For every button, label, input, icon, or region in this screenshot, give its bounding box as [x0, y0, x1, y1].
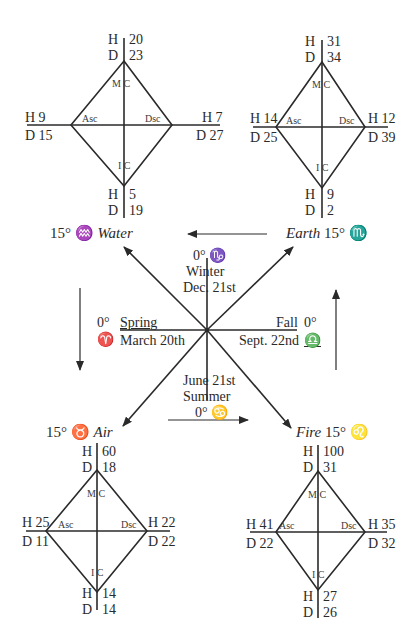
fire-ic-h-value: 27 [323, 590, 337, 604]
cancer-icon: ♋ [211, 405, 228, 420]
aries-icon: ♈ [97, 333, 114, 347]
water-ic-h-value: 5 [129, 188, 136, 202]
water-ic-angle: I C [118, 161, 131, 171]
fire-ic-h-label: H [303, 590, 313, 604]
air-asc-d: D 11 [22, 535, 49, 549]
fire-dsc-d: D 32 [368, 537, 396, 551]
fall-degree: 0° [304, 316, 317, 330]
water-ic-d-label: D [108, 204, 118, 218]
earth-mc-d-label: D [305, 51, 315, 65]
earth-ic-h-value: 9 [327, 188, 334, 202]
diagram-canvas [0, 0, 417, 636]
fire-mc-h-label: H [303, 445, 313, 459]
air-heading: 15° ♉ Air [46, 425, 113, 440]
leo-icon: ♌ [350, 424, 369, 440]
water-heading: 15° ♒ Water [50, 226, 133, 241]
air-mc-d-label: D [82, 461, 92, 475]
fire-mc-angle: M C [308, 490, 326, 500]
earth-mc-angle: M C [312, 80, 330, 90]
earth-mc-d-value: 34 [327, 51, 341, 65]
air-ic-angle: I C [91, 568, 104, 578]
earth-ic-h-label: H [305, 188, 315, 202]
fire-ic-d-label: D [303, 606, 313, 620]
fire-asc-d: D 22 [246, 537, 274, 551]
earth-asc-angle: Asc [286, 116, 302, 126]
fire-heading: Fire 15° ♌ [296, 425, 369, 440]
air-mc-d-value: 18 [102, 461, 116, 475]
summer-date: June 21st [183, 374, 236, 388]
winter-date: Dec. 21st [183, 281, 236, 295]
aquarius-icon: ♒ [75, 225, 94, 241]
earth-dsc-d: D 39 [368, 131, 396, 145]
air-ic-h-label: H [82, 587, 92, 601]
air-mc-h-label: H [82, 445, 92, 459]
water-mc-angle: M C [112, 79, 130, 89]
earth-chart [253, 40, 388, 218]
air-element-label: Air [94, 424, 113, 440]
spring-degree: 0° [97, 316, 110, 330]
fire-dsc-h: H 35 [368, 518, 396, 532]
water-ic-d-value: 19 [129, 204, 143, 218]
fire-dsc-angle: Dsc [341, 521, 357, 531]
fire-ic-angle: I C [312, 570, 325, 580]
earth-degree: 15° [324, 225, 345, 241]
water-asc-h: H 9 [25, 111, 46, 125]
fire-mc-d-label: D [303, 461, 313, 475]
air-asc-angle: Asc [58, 520, 74, 530]
earth-dsc-h: H 12 [368, 112, 396, 126]
water-mc-h-label: H [108, 33, 118, 47]
earth-element-label: Earth [286, 225, 320, 241]
summer-heading: 0° ♋ [195, 406, 228, 420]
water-dsc-d: D 27 [196, 129, 224, 143]
water-mc-d-value: 23 [129, 49, 143, 63]
libra-icon: ♎ [304, 334, 321, 348]
water-asc-d: D 15 [25, 129, 53, 143]
air-dsc-d: D 22 [148, 535, 176, 549]
air-ic-d-label: D [82, 603, 92, 617]
spring-season: Spring [120, 316, 157, 330]
air-degree: 15° [46, 424, 67, 440]
air-mc-h-value: 60 [102, 445, 116, 459]
water-chart [27, 38, 220, 218]
taurus-icon: ♉ [71, 424, 90, 440]
spring-date: March 20th [120, 334, 185, 348]
air-mc-angle: M C [87, 489, 105, 499]
winter-season: Winter [186, 265, 224, 279]
air-ic-d-value: 14 [102, 603, 116, 617]
air-dsc-h: H 22 [148, 516, 176, 530]
summer-degree: 0° [195, 405, 208, 420]
earth-dsc-angle: Dsc [339, 116, 355, 126]
water-degree: 15° [50, 225, 71, 241]
water-mc-d-label: D [108, 49, 118, 63]
capricorn-icon: ♑ [209, 248, 226, 263]
winter-degree: 0° [193, 248, 206, 263]
winter-heading: 0° ♑ [193, 249, 226, 263]
air-dsc-angle: Dsc [121, 520, 137, 530]
water-ic-h-label: H [108, 188, 118, 202]
earth-asc-d: D 25 [250, 131, 278, 145]
fire-ic-d-value: 26 [323, 606, 337, 620]
earth-mc-h-label: H [305, 35, 315, 49]
summer-season: Summer [183, 390, 230, 404]
air-asc-h: H 25 [22, 516, 50, 530]
earth-heading: Earth 15° ♏ [286, 226, 368, 241]
earth-ic-d-label: D [305, 204, 315, 218]
fall-season: Fall [276, 316, 298, 330]
fire-degree: 15° [325, 424, 346, 440]
earth-asc-h: H 14 [250, 112, 278, 126]
water-dsc-h: H 7 [202, 111, 223, 125]
fire-element-label: Fire [296, 424, 321, 440]
fire-asc-angle: Asc [279, 521, 295, 531]
scorpio-icon: ♏ [349, 225, 368, 241]
water-dsc-angle: Dsc [145, 114, 161, 124]
earth-ic-d-value: 2 [327, 204, 334, 218]
air-ic-h-value: 14 [102, 587, 116, 601]
water-element-label: Water [98, 225, 133, 241]
fire-mc-h-value: 100 [323, 445, 344, 459]
fall-date: Sept. 22nd [239, 334, 299, 348]
water-mc-h-value: 20 [129, 33, 143, 47]
earth-ic-angle: I C [316, 163, 329, 173]
water-asc-angle: Asc [82, 114, 98, 124]
fire-asc-h: H 41 [246, 518, 274, 532]
earth-mc-h-value: 31 [327, 35, 341, 49]
